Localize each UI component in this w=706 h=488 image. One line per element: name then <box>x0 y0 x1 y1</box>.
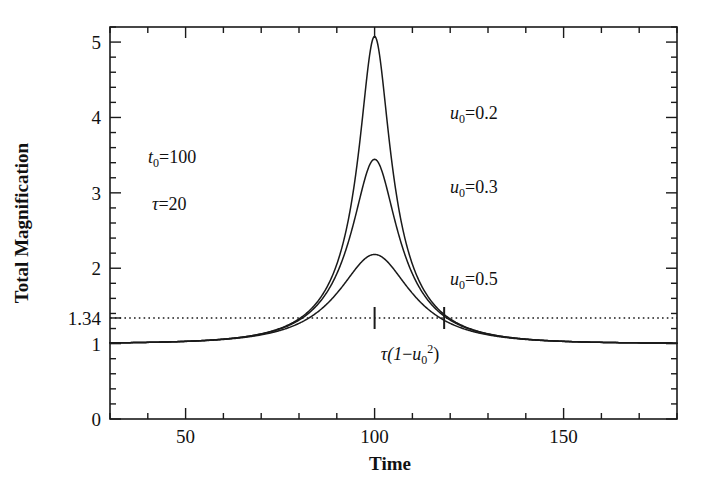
x-axis-title: Time <box>369 453 411 474</box>
y-axis-title: Total Magnification <box>11 142 32 303</box>
chart-svg: 54321.3410 50100150 Time Total Magnifica… <box>0 0 706 488</box>
annotation-u0-03-value: =0.3 <box>465 177 498 197</box>
annotation-bracket-close: ) <box>433 344 439 365</box>
chart-background <box>0 0 706 488</box>
annotation-t0-value: =100 <box>159 147 196 167</box>
annotation-bracket-minus: − <box>402 344 412 364</box>
y-tick-label: 0 <box>92 409 102 430</box>
y-tick-label: 1.34 <box>68 308 102 329</box>
microlensing-magnification-figure: 54321.3410 50100150 Time Total Magnifica… <box>0 0 706 488</box>
annotation-u0-02: u0=0.2 <box>450 103 498 126</box>
annotation-u0-05-value: =0.5 <box>465 269 498 289</box>
x-tick-label: 150 <box>549 426 578 447</box>
y-tick-label: 3 <box>92 183 102 204</box>
y-tick-label: 4 <box>92 107 102 128</box>
annotation-u0-05: u0=0.5 <box>450 269 498 292</box>
annotation-u0-02-symbol: u <box>450 103 459 123</box>
annotation-bracket-tau: τ(1 <box>381 344 402 365</box>
y-tick-label: 1 <box>92 334 102 355</box>
annotation-bracket-u: u <box>412 344 421 364</box>
annotation-tau: τ=20 <box>152 194 187 214</box>
y-tick-label: 2 <box>92 258 102 279</box>
x-tick-label: 100 <box>360 426 389 447</box>
y-tick-label: 5 <box>92 32 102 53</box>
x-tick-label: 50 <box>176 426 195 447</box>
annotation-tau-value: =20 <box>158 194 186 214</box>
annotation-u0-03-symbol: u <box>450 177 459 197</box>
annotation-u0-05-symbol: u <box>450 269 459 289</box>
annotation-u0-03: u0=0.3 <box>450 177 498 200</box>
annotation-u0-02-value: =0.2 <box>465 103 498 123</box>
